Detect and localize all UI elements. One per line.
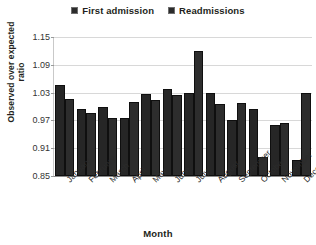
- bar: [129, 102, 138, 176]
- y-tick-label: 1.03: [8, 88, 50, 98]
- bar-chart: First admission Readmissions Observed ov…: [0, 0, 316, 245]
- chart-legend: First admission Readmissions: [0, 6, 316, 16]
- bar: [194, 51, 203, 176]
- bar-group: [76, 37, 98, 176]
- legend-label: Readmissions: [179, 6, 245, 16]
- legend-label: First admission: [82, 6, 154, 16]
- bar: [163, 89, 172, 176]
- bar: [172, 95, 181, 176]
- legend-swatch-icon: [168, 7, 175, 14]
- bar: [151, 100, 160, 176]
- y-axis-title: Observed over expected ratio: [6, 12, 26, 132]
- y-tick-label: 0.85: [8, 171, 50, 181]
- bar: [141, 94, 150, 176]
- legend-item-readmissions: Readmissions: [168, 6, 245, 16]
- bar-group: [162, 37, 184, 176]
- bar: [65, 99, 74, 176]
- bar-group: [119, 37, 141, 176]
- y-tick-label: 0.97: [8, 115, 50, 125]
- bar: [55, 85, 64, 176]
- x-axis-title: Month: [0, 228, 316, 239]
- bar: [206, 93, 215, 176]
- bar-group: [140, 37, 162, 176]
- legend-item-first-admission: First admission: [71, 6, 154, 16]
- y-tick-label: 0.91: [8, 143, 50, 153]
- bar-group: [183, 37, 205, 176]
- bar-group: [226, 37, 248, 176]
- legend-swatch-icon: [71, 7, 78, 14]
- bar-group: [54, 37, 76, 176]
- bar: [184, 93, 193, 176]
- bar-groups: [54, 37, 312, 176]
- y-tick-label: 1.15: [8, 32, 50, 42]
- x-axis-tick-labels: JanuaryFebruaryMarchAprilMayJuneJulyAugu…: [53, 178, 311, 228]
- y-tick-label: 1.09: [8, 60, 50, 70]
- bar-group: [205, 37, 227, 176]
- bar: [215, 104, 224, 176]
